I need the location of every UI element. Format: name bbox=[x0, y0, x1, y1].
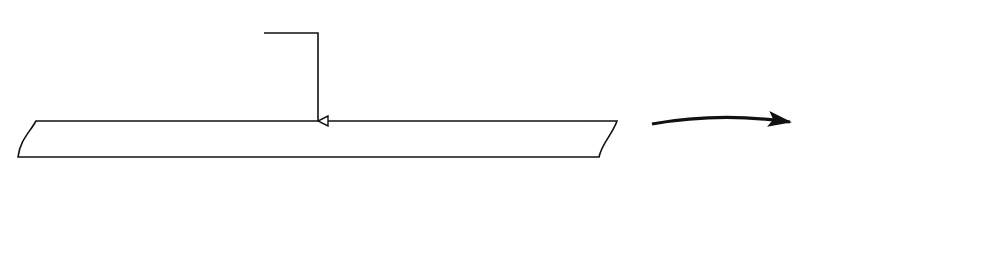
tape-right-torn-edge bbox=[582, 121, 617, 157]
transform-arrow-icon bbox=[652, 117, 790, 124]
tape-left-torn-edge bbox=[18, 121, 54, 157]
head-pointer-arrow bbox=[264, 33, 318, 121]
tape bbox=[18, 121, 617, 157]
tape-head bbox=[264, 33, 318, 121]
diagram-canvas bbox=[0, 0, 983, 276]
